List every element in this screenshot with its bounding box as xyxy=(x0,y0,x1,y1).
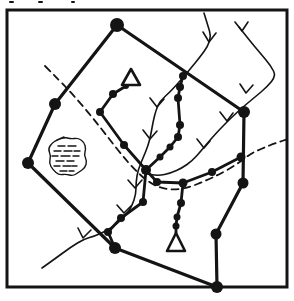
station-dot xyxy=(177,199,185,207)
map-sketch xyxy=(0,0,294,301)
marsh-symbol xyxy=(49,137,87,175)
station-dot xyxy=(157,154,164,161)
vertex-dot xyxy=(238,178,249,189)
flow-tick-icon xyxy=(235,22,248,31)
flow-tick-icon xyxy=(220,112,233,121)
path-south xyxy=(173,183,186,233)
station-dot xyxy=(174,133,182,141)
station-dot xyxy=(173,223,180,230)
triangle-south xyxy=(167,233,185,251)
path-central xyxy=(141,72,187,175)
flow-tick-icon xyxy=(240,84,253,93)
vertex-dot xyxy=(22,157,34,169)
vertex-dot xyxy=(238,106,250,118)
triangle-north xyxy=(122,69,140,85)
vertex-dot xyxy=(211,281,223,293)
station-dot xyxy=(120,141,128,149)
flow-tick-icon xyxy=(78,228,91,238)
station-dot xyxy=(109,90,117,98)
path-northwest xyxy=(96,83,146,170)
figure xyxy=(0,0,294,301)
station-dot xyxy=(96,108,104,116)
station-dot xyxy=(179,72,187,80)
station-dot xyxy=(208,168,216,176)
vertex-dot xyxy=(49,98,61,110)
vertex-dot xyxy=(110,18,124,32)
vertex-dot xyxy=(211,229,222,240)
station-dot xyxy=(117,214,125,222)
station-dot xyxy=(139,198,147,206)
flow-tick-icon xyxy=(128,180,142,188)
station-dot xyxy=(104,228,112,236)
station-dot xyxy=(167,144,174,151)
stream-main xyxy=(42,13,216,268)
station-dot xyxy=(153,178,161,186)
station-dot xyxy=(174,94,182,102)
flow-tick-icon xyxy=(197,139,210,148)
text-specks xyxy=(9,1,75,3)
station-dot xyxy=(237,153,246,162)
station-dot xyxy=(176,121,184,129)
station-dot xyxy=(176,83,184,91)
station-dot xyxy=(174,214,181,221)
